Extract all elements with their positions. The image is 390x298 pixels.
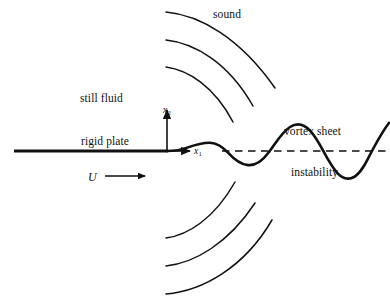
- x2-axis-label: x2: [163, 105, 171, 115]
- sound-arc-upper-3: [166, 67, 233, 122]
- still-fluid-label: still fluid: [80, 92, 123, 105]
- rigid-plate-label: rigid plate: [81, 135, 129, 148]
- sound-label: sound: [213, 8, 241, 21]
- coordinate-axes: [167, 110, 190, 151]
- sound-arc-lower-3: [166, 220, 272, 294]
- vortex-sheet-label-line2: instability: [288, 166, 341, 180]
- sound-arcs-upper: [166, 12, 275, 122]
- sound-arcs-lower: [166, 182, 272, 294]
- x1-axis-label-subscript: 1: [198, 150, 201, 157]
- vortex-sheet-figure: sound still fluid rigid plate vortex she…: [0, 0, 390, 298]
- sound-arc-upper-1: [166, 12, 275, 88]
- sound-arc-lower-1: [166, 182, 235, 238]
- vortex-sheet-instability-label: vortex sheet instability: [284, 98, 341, 207]
- x2-axis-label-subscript: 2: [167, 109, 170, 116]
- flow-speed-label: U: [88, 170, 97, 185]
- sound-arc-upper-2: [166, 40, 253, 106]
- x1-axis-label: x1: [194, 146, 202, 156]
- vortex-sheet-label-line1: vortex sheet: [284, 125, 341, 139]
